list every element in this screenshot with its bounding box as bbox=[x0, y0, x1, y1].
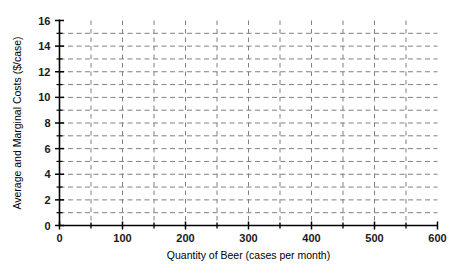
y-axis-tick-label: 12 bbox=[38, 66, 50, 78]
x-axis-tick-label: 600 bbox=[428, 232, 446, 244]
x-axis-tick-label: 500 bbox=[365, 232, 383, 244]
chart-background bbox=[0, 0, 466, 269]
x-axis-tick-label: 200 bbox=[176, 232, 194, 244]
cost-curve-grid-chart: 02468101214160100200300400500600Quantity… bbox=[0, 0, 466, 269]
y-axis-title: Average and Marginal Costs ($/case) bbox=[11, 36, 23, 209]
y-axis-tick-label: 2 bbox=[44, 194, 50, 206]
y-axis-tick-label: 4 bbox=[44, 168, 51, 180]
chart-container: 02468101214160100200300400500600Quantity… bbox=[0, 0, 466, 269]
y-axis-tick-label: 14 bbox=[38, 40, 51, 52]
y-axis-tick-label: 16 bbox=[38, 15, 50, 27]
x-axis-tick-label: 100 bbox=[113, 232, 131, 244]
x-axis-tick-label: 400 bbox=[302, 232, 320, 244]
y-axis-tick-label: 6 bbox=[44, 143, 50, 155]
y-axis-tick-label: 8 bbox=[44, 117, 50, 129]
x-axis-tick-label: 0 bbox=[56, 232, 62, 244]
y-axis-tick-label: 0 bbox=[44, 220, 50, 232]
x-axis-title: Quantity of Beer (cases per month) bbox=[167, 249, 330, 261]
y-axis-tick-label: 10 bbox=[38, 91, 50, 103]
x-axis-tick-label: 300 bbox=[239, 232, 257, 244]
